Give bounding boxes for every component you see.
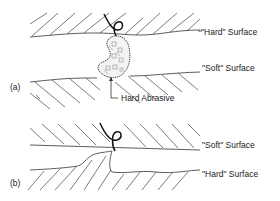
panel-b-hard-surface-line [30, 151, 200, 173]
panel-b-soft-surface-hatch [30, 124, 200, 148]
panel-a-tag: (a) [10, 82, 21, 92]
panel-b-tag: (b) [10, 178, 21, 188]
panel-a-wear-debris-curl [104, 14, 123, 36]
panel-a-soft-surface-label: "Soft" Surface [202, 63, 255, 73]
panel-b: (b) "Soft" Surface "Hard" Surface [10, 123, 258, 190]
panel-a: (a) "Hard" Surface "Soft" Surface Hard A… [10, 13, 257, 109]
panel-b-hard-surface-label: "Hard" Surface [202, 169, 258, 179]
panel-b-soft-surface-label: "Soft" Surface [202, 140, 255, 150]
hard-abrasive-label: Hard Abrasive [121, 93, 175, 103]
panel-a-soft-surface-hatch [30, 73, 198, 109]
panel-a-hard-surface-label: "Hard" Surface [201, 27, 257, 37]
panel-b-hard-surface-hatch [28, 156, 188, 190]
panel-b-soft-surface-line [30, 145, 200, 150]
abrasive-wear-diagram: (a) "Hard" Surface "Soft" Surface Hard A… [0, 0, 280, 201]
